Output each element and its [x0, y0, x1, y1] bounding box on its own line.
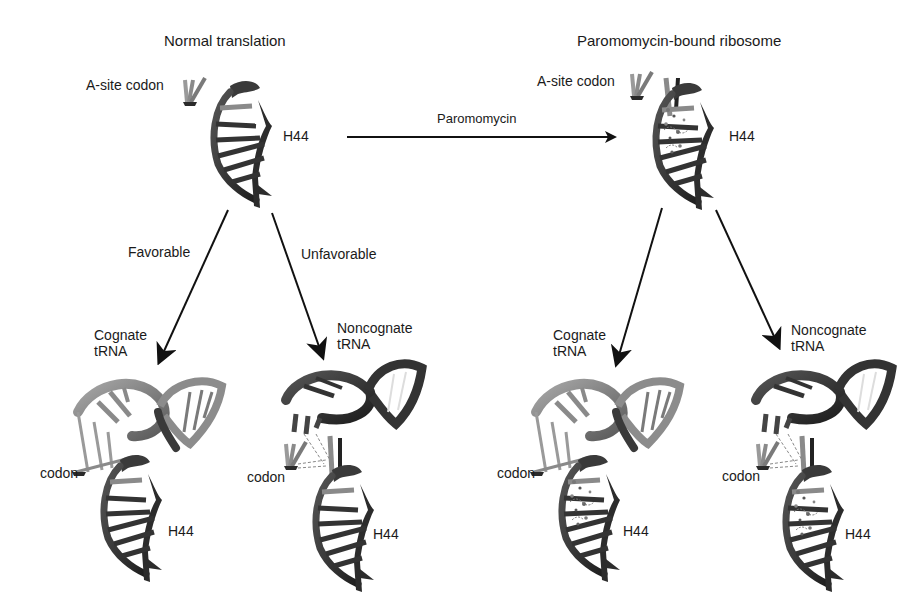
cognate-label-left: Cognate tRNA [94, 327, 147, 359]
h44-top-left [214, 81, 272, 208]
normal-translation-title: Normal translation [164, 32, 286, 49]
h44-label-noncognate-right: H44 [845, 526, 871, 542]
codon-label-noncognate-left: codon [247, 469, 285, 485]
h44-label-cognate-left: H44 [168, 523, 194, 539]
favorable-arrow [160, 210, 228, 360]
h44-label-top-left: H44 [283, 128, 309, 144]
h44-label-cognate-right: H44 [623, 523, 649, 539]
unfavorable-arrow [272, 213, 322, 355]
asite-codon-label-left: A-site codon [86, 77, 164, 93]
noncognate-label-right-line1: Noncognate [791, 322, 867, 338]
codon-label-cognate-left: codon [40, 465, 78, 481]
noncognate-label-left-line2: tRNA [337, 336, 413, 352]
h44-cognate-left [104, 455, 162, 582]
cognate-label-right: Cognate tRNA [553, 327, 606, 359]
unfavorable-label: Unfavorable [301, 246, 377, 262]
h44-noncognate-left [316, 465, 374, 592]
favorable-label: Favorable [128, 244, 190, 260]
codon-label-noncognate-right: codon [722, 468, 760, 484]
paromomycin-bound-title: Paromomycin-bound ribosome [577, 32, 781, 49]
cognate-label-right-line2: tRNA [553, 343, 606, 359]
cognate-label-right-line1: Cognate [553, 327, 606, 343]
noncognate-right-arrow [716, 210, 778, 345]
asite-codon-label-right: A-site codon [537, 73, 615, 89]
cognate-label-left-line2: tRNA [94, 343, 147, 359]
cognate-right-arrow [617, 208, 662, 362]
h44-top-right [656, 83, 714, 210]
codon-label-cognate-right: codon [497, 465, 535, 481]
noncognate-label-left-line1: Noncognate [337, 320, 413, 336]
cognate-label-left-line1: Cognate [94, 327, 147, 343]
h44-label-top-right: H44 [729, 128, 755, 144]
h44-label-noncognate-left: H44 [373, 526, 399, 542]
h44-cognate-right [562, 455, 620, 582]
noncognate-label-right: Noncognate tRNA [791, 322, 867, 354]
h44-noncognate-right [786, 465, 844, 592]
paromomycin-label: Paromomycin [437, 112, 516, 127]
noncognate-label-left: Noncognate tRNA [337, 320, 413, 352]
noncognate-label-right-line2: tRNA [791, 338, 867, 354]
